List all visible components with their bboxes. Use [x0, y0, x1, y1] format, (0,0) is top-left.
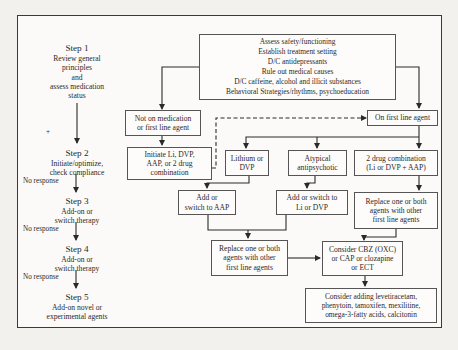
box-line: Consider adding levetiracetam,: [325, 292, 417, 301]
consider-cbz-box: Consider CBZ (OXC) or CAP or clozapine o…: [322, 241, 403, 276]
replace-agents-middle-box: Replace one or both agents with other fi…: [211, 240, 288, 276]
box-line: first line agents: [373, 215, 420, 224]
lithium-dvp-box: Lithium or DVP: [225, 150, 269, 176]
assess-line: D/C antidepressants: [268, 57, 327, 67]
add-switch-aap-box: Add or switch to AAP: [178, 190, 236, 215]
box-line: Replace one or both: [219, 244, 280, 253]
add-switch-li-dvp-box: Add or switch to Li or DVP: [276, 190, 348, 215]
box-line: first line agents: [226, 263, 273, 272]
box-line: agents with other: [370, 206, 422, 215]
assess-line: Rule out medical causes: [262, 67, 334, 77]
assess-line: D/C caffeine, alcohol and illicit substa…: [234, 77, 361, 87]
on-first-line-agent-box: On first line agent: [367, 110, 438, 126]
initiate-box: Initiate Li, DVP, AAP, or 2 drug combina…: [127, 147, 212, 180]
box-line: omega-3-fatty acids, calcitonin: [325, 310, 417, 319]
box-line: (Li or DVP + AAP): [366, 163, 426, 172]
box-line: agents with other: [223, 253, 275, 262]
box-line: antipsychotic: [297, 163, 338, 172]
box-line: combination: [151, 168, 189, 177]
not-on-medication-box: Not on medication or first line agent: [125, 110, 201, 136]
box-line: phenytoin, tamoxifen, mexilitine,: [322, 301, 421, 310]
box-line: Lithium or: [231, 154, 264, 163]
two-drug-combination-box: 2 drug combination (Li or DVP + AAP): [354, 150, 438, 176]
replace-agents-right-box: Replace one or both agents with other fi…: [354, 192, 438, 229]
box-line: DVP: [239, 163, 254, 172]
box-line: Replace one or both: [366, 197, 427, 206]
atypical-antipsychotic-box: Atypical antipsychotic: [288, 150, 347, 176]
box-line: Li or DVP: [296, 203, 328, 212]
assess-box: Assess safety/functioning Establish trea…: [199, 34, 396, 100]
assess-line: Behavioral Strategies/rhythms, psychoedu…: [226, 87, 369, 97]
assess-line: Assess safety/functioning: [260, 37, 336, 47]
box-line: Not on medication: [135, 114, 192, 123]
consider-adding-box: Consider adding levetiracetam, phenytoin…: [305, 288, 437, 323]
box-line: Consider CBZ (OXC): [329, 245, 396, 254]
box-line: AAP, or 2 drug: [147, 159, 193, 168]
box-line: 2 drug combination: [366, 154, 425, 163]
box-line: or CAP or clozapine: [332, 254, 394, 263]
box-line: Initiate Li, DVP,: [144, 150, 194, 159]
box-line: Atypical: [304, 154, 330, 163]
assess-line: Establish treatment setting: [258, 47, 336, 57]
box-line: Add or switch to: [287, 193, 338, 202]
box-line: switch to AAP: [185, 203, 229, 212]
box-line: On first line agent: [375, 113, 430, 122]
box-line: Add or: [196, 193, 217, 202]
box-line: or first line agent: [137, 123, 189, 132]
box-line: or ECT: [351, 263, 374, 272]
